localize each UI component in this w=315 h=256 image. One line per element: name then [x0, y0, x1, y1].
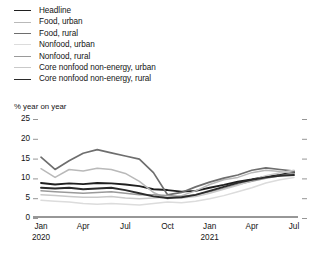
y-tick-label: 0	[25, 213, 30, 222]
legend-label: Nonfood, rural	[39, 51, 90, 62]
x-tick-label: Jan	[34, 222, 48, 231]
legend-label: Nonfood, urban	[39, 39, 95, 50]
line-chart-svg: 0510152025Jan2020AprJulOctJan2021AprJul	[0, 100, 315, 256]
legend-swatch-line	[14, 56, 31, 57]
chart-page: HeadlineFood, urbanFood, ruralNonfood, u…	[0, 0, 315, 256]
legend-label: Food, rural	[39, 28, 78, 39]
chart-legend: HeadlineFood, urbanFood, ruralNonfood, u…	[14, 5, 156, 85]
x-tick-label: Jan	[203, 222, 217, 231]
legend-swatch-line	[14, 33, 31, 34]
legend-item[interactable]: Headline	[14, 5, 156, 16]
legend-swatch-line	[14, 44, 31, 45]
series-line	[41, 173, 294, 196]
legend-item[interactable]: Nonfood, urban	[14, 39, 156, 50]
y-tick-label: 25	[21, 114, 31, 123]
x-tick-label: Jul	[289, 222, 300, 231]
legend-item[interactable]: Food, urban	[14, 16, 156, 27]
legend-item[interactable]: Core nonfood non-energy, urban	[14, 62, 156, 73]
x-tick-label: Jul	[120, 222, 131, 231]
legend-item[interactable]: Food, rural	[14, 28, 156, 39]
legend-label: Core nonfood non-energy, rural	[39, 73, 151, 84]
x-tick-label: Oct	[161, 222, 174, 231]
y-tick-label: 15	[21, 154, 31, 163]
x-tick-year-label: 2021	[201, 233, 220, 242]
x-tick-label: Apr	[77, 222, 90, 231]
y-tick-label: 20	[21, 134, 31, 143]
legend-label: Headline	[39, 5, 71, 16]
legend-label: Food, urban	[39, 16, 83, 27]
legend-swatch-line	[14, 79, 31, 80]
legend-swatch-line	[14, 22, 31, 23]
chart-area: % year on year 0510152025Jan2020AprJulOc…	[0, 100, 315, 256]
legend-swatch-line	[14, 10, 31, 11]
x-tick-year-label: 2020	[32, 233, 51, 242]
legend-label: Core nonfood non-energy, urban	[39, 62, 156, 73]
series-line	[41, 177, 294, 205]
legend-item[interactable]: Core nonfood non-energy, rural	[14, 73, 156, 84]
y-tick-label: 5	[25, 193, 30, 202]
legend-item[interactable]: Nonfood, rural	[14, 51, 156, 62]
legend-swatch-line	[14, 67, 31, 68]
x-tick-label: Apr	[245, 222, 258, 231]
y-tick-label: 10	[21, 173, 31, 182]
